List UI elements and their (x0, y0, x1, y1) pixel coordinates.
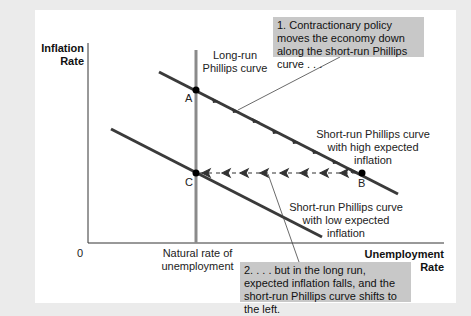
y-axis-label-line2: Rate (40, 55, 84, 68)
srpc-high-line1: Short-run Phillips curve (313, 128, 433, 141)
origin-label: 0 (77, 247, 83, 260)
lrpc-label-line2: Phillips curve (200, 62, 270, 75)
point-b (359, 170, 366, 177)
srpc-low-label: Short-run Phillips curve with low expect… (286, 201, 406, 240)
callout-1: 1. Contractionary policy moves the econo… (273, 17, 424, 57)
point-a (193, 87, 200, 94)
natural-rate-label: Natural rate of unemployment (160, 247, 235, 273)
srpc-low-line3: inflation (286, 227, 406, 240)
shift-arrows-b-to-c (200, 169, 360, 177)
y-axis-label: Inflation Rate (40, 42, 84, 68)
srpc-high-line2: with high expected (313, 141, 433, 154)
point-c-label: C (185, 176, 193, 189)
srpc-high-line3: inflation (313, 154, 433, 167)
lrpc-label-line1: Long-run (200, 49, 270, 62)
srpc-low-line2: with low expected (286, 214, 406, 227)
srpc-high-label: Short-run Phillips curve with high expec… (313, 128, 433, 167)
y-axis-label-line1: Inflation (40, 42, 84, 55)
lrpc-label: Long-run Phillips curve (200, 49, 270, 75)
srpc-low-line1: Short-run Phillips curve (286, 201, 406, 214)
point-a-label: A (185, 92, 192, 105)
x-axis-label-line1: Unemployment (360, 248, 444, 261)
callout-2: 2. . . . but in the long run, expected i… (240, 262, 411, 302)
point-c (193, 170, 200, 177)
natural-rate-line2: unemployment (160, 260, 235, 273)
natural-rate-line1: Natural rate of (160, 247, 235, 260)
point-b-label: B (358, 177, 365, 190)
